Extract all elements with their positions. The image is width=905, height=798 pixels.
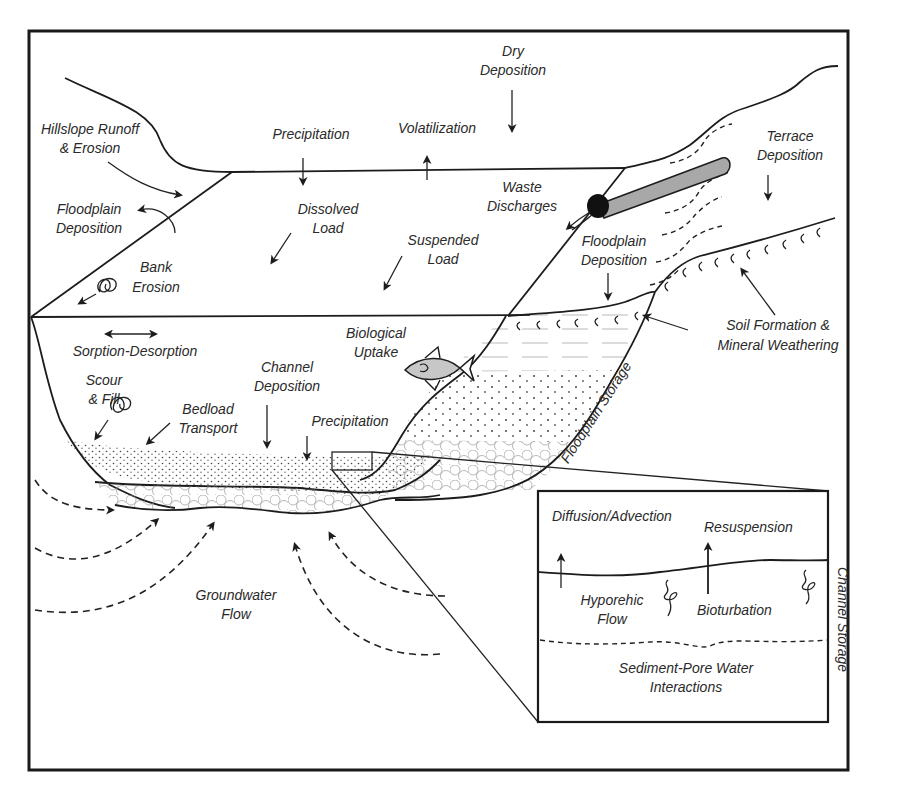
label-bank-erosion: Bank Erosion [132, 259, 180, 295]
svg-text:Bank: Bank [140, 259, 173, 275]
svg-text:Transport: Transport [179, 420, 239, 436]
terrace-layer-dashes [650, 124, 732, 285]
svg-text:Channel: Channel [261, 359, 314, 375]
svg-text:Flow: Flow [597, 611, 627, 627]
svg-text:Deposition: Deposition [757, 147, 823, 163]
label-biological-uptake: Biological Uptake [346, 325, 407, 360]
svg-text:Discharges: Discharges [487, 198, 557, 214]
svg-text:Sediment-Pore Water: Sediment-Pore Water [619, 660, 755, 676]
svg-text:Deposition: Deposition [581, 252, 647, 268]
fluvial-processes-diagram: Dry Deposition Hillslope Runoff & Erosio… [0, 0, 905, 798]
svg-text:Soil Formation &: Soil Formation & [726, 317, 829, 333]
terrace-surface-line [655, 218, 835, 292]
water-surface-line [31, 315, 530, 317]
svg-text:Terrace: Terrace [767, 128, 814, 144]
svg-text:Floodplain: Floodplain [57, 201, 122, 217]
svg-text:Deposition: Deposition [254, 378, 320, 394]
label-channel-deposition: Channel Deposition [254, 359, 320, 394]
svg-text:Scour: Scour [86, 372, 124, 388]
svg-text:Bedload: Bedload [182, 401, 235, 417]
svg-text:Hyporehic: Hyporehic [580, 592, 643, 608]
label-suspended-load: Suspended Load [408, 232, 480, 267]
label-soil-formation: Soil Formation & Mineral Weathering [717, 317, 838, 353]
label-terrace-deposition: Terrace Deposition [757, 128, 823, 163]
svg-text:Floodplain: Floodplain [582, 233, 647, 249]
bank-erosion-eddy-icon [80, 279, 116, 304]
svg-text:Waste: Waste [502, 179, 542, 195]
inset-label-resuspension: Resuspension [704, 519, 793, 535]
svg-text:Groundwater: Groundwater [196, 587, 278, 603]
callout-line-lower [332, 470, 538, 722]
label-dry-deposition: Dry Deposition [480, 43, 546, 78]
svg-text:Uptake: Uptake [354, 344, 399, 360]
label-sorption-desorption: Sorption-Desorption [73, 343, 198, 359]
svg-text:Deposition: Deposition [480, 62, 546, 78]
svg-text:Suspended: Suspended [408, 232, 480, 248]
label-precipitation-channel: Precipitation [311, 413, 388, 429]
left-bank-slope [31, 172, 232, 317]
svg-text:& Erosion: & Erosion [60, 140, 121, 156]
label-groundwater-flow: Groundwater Flow [196, 587, 278, 622]
svg-text:Hillslope Runoff: Hillslope Runoff [41, 121, 141, 137]
label-dissolved-load: Dissolved Load [298, 201, 360, 236]
terrace-root-icon [665, 228, 820, 291]
svg-text:Dry: Dry [502, 43, 525, 59]
label-waste-discharges: Waste Discharges [487, 179, 557, 214]
label-bedload-transport: Bedload Transport [179, 401, 239, 436]
floodplain-surface-line [232, 168, 625, 172]
svg-text:Deposition: Deposition [56, 220, 122, 236]
svg-text:Mineral Weathering: Mineral Weathering [717, 337, 838, 353]
svg-text:Flow: Flow [221, 606, 251, 622]
svg-text:Dissolved: Dissolved [298, 201, 360, 217]
label-volatilization: Volatilization [398, 120, 476, 136]
inset-label-channel-storage: Channel Storage [835, 567, 851, 672]
svg-text:Interactions: Interactions [650, 679, 722, 695]
inset-label-bioturbation: Bioturbation [697, 602, 772, 618]
label-floodplain-deposition-right: Floodplain Deposition [581, 233, 647, 268]
svg-text:& Fill: & Fill [88, 391, 120, 407]
label-scour-fill: Scour & Fill [86, 372, 124, 407]
svg-text:Load: Load [312, 220, 344, 236]
label-floodplain-deposition-left: Floodplain Deposition [56, 201, 122, 236]
svg-text:Erosion: Erosion [132, 279, 180, 295]
svg-text:Load: Load [427, 251, 459, 267]
label-hillslope-runoff: Hillslope Runoff & Erosion [41, 121, 141, 156]
label-precipitation-top: Precipitation [272, 126, 349, 142]
svg-text:Biological: Biological [346, 325, 407, 341]
inset-label-diffusion-advection: Diffusion/Advection [552, 508, 672, 524]
